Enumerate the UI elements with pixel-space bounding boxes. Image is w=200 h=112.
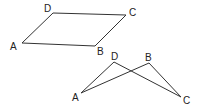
label-parallelogram-C: C [129, 7, 136, 18]
label-parallelogram-D: D [44, 3, 51, 14]
crossed-quadrilateral-outline [81, 62, 181, 97]
label-crossed-D: D [111, 51, 118, 62]
label-crossed-A: A [72, 92, 79, 103]
figure-canvas: A B C D A B C D [0, 0, 200, 112]
label-parallelogram-B: B [97, 46, 104, 57]
geometry-figure: A B C D A B C D [0, 0, 200, 112]
parallelogram-outline [22, 13, 126, 46]
label-parallelogram-A: A [10, 41, 17, 52]
label-crossed-C: C [183, 95, 190, 106]
label-crossed-B: B [145, 52, 152, 63]
